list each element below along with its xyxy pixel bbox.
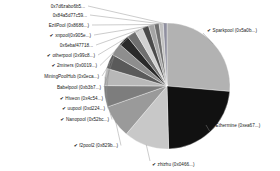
pie-slice-label[interactable]: ✔ 2miners (0x0019...): [51, 63, 97, 68]
pie-slice-label[interactable]: ✔ Hiveon (0x4c54...): [60, 96, 104, 101]
pie-slice-label-text: otherpool (0x99c8...): [52, 53, 95, 58]
pie-slice-label-text: MiningPoolHub (0x0eca...): [44, 74, 99, 79]
pie-slice-label-text: Hiveon (0x4c54...): [65, 96, 103, 101]
pie-slice-label[interactable]: ✔ xnpool(0x905e...): [50, 33, 92, 38]
pie-slice-label[interactable]: ✔ f2pool2 (0x829b...): [74, 143, 119, 148]
pie-slice-label[interactable]: MiningPoolHub (0x0eca...): [44, 74, 99, 79]
leader-line: [90, 15, 161, 24]
pie-slice-label-text: 0x84a5d77c59...: [53, 13, 87, 18]
pie-slice-label-text: EzilPool (0x8686...): [49, 23, 90, 28]
pie-slice-label-text: xnpool(0x905e...): [55, 33, 91, 38]
leader-line: [88, 6, 165, 24]
leader-line: [146, 145, 150, 161]
pie-slice-label[interactable]: ✔ uupool (0xd224...): [62, 106, 105, 111]
pie-slice-label-text: 2miners (0x0019...): [57, 63, 97, 68]
leader-line: [92, 24, 157, 25]
pie-slice-label[interactable]: ✔ zhizhu (0x0466...): [152, 162, 195, 167]
pie-chart-container: ✔ Sparkpool (0x5a0b...)✔ Ethermine (0xea…: [0, 0, 280, 171]
pie-slice-label[interactable]: Babelpool (0xb3b7...): [57, 85, 102, 90]
mining-pool-distribution-pie-chart: ✔ Sparkpool (0x5a0b...)✔ Ethermine (0xea…: [0, 0, 280, 171]
pie-slice-label[interactable]: 0x7d6zabo6b5...: [51, 4, 85, 9]
pie-slice-label-text: zhizhu (0x0466...): [158, 162, 195, 167]
pie-slice-label-text: 0x7d6zabo6b5...: [51, 4, 85, 9]
pie-slice-label-text: Sparkpool (0x5a0b...): [213, 28, 258, 33]
pie-slice[interactable]: [167, 86, 230, 149]
pie-slice-label-text: 0x6ebaf47718...: [60, 43, 93, 48]
pie-slice-label-text: Ethermine (0xea67...): [216, 123, 261, 128]
pie-slice-label[interactable]: ✔ otherpool (0x99c8...): [47, 53, 96, 58]
pie-slice-label[interactable]: EzilPool (0x8686...): [49, 23, 90, 28]
pie-slice-label[interactable]: ✔ Sparkpool (0x5a0b...): [207, 28, 257, 33]
pie-slice[interactable]: [167, 23, 230, 91]
pie-slice-label-text: uupool (0xd224...): [68, 106, 106, 111]
pie-slice-label[interactable]: ✔ Nanopool (0x52bc...): [60, 117, 109, 122]
pie-slice-label[interactable]: 0x6ebaf47718...: [60, 43, 93, 48]
pie-slice-label[interactable]: 0x84a5d77c59...: [53, 13, 87, 18]
pie-slice-label-text: Babelpool (0xb3b7...): [57, 85, 102, 90]
pie-slice-label[interactable]: ✔ Ethermine (0xea67...): [210, 123, 261, 128]
pie-slice-label-text: f2pool2 (0x829b...): [79, 143, 118, 148]
pie-slice-label-text: Nanopool (0x52bc...): [66, 117, 109, 122]
